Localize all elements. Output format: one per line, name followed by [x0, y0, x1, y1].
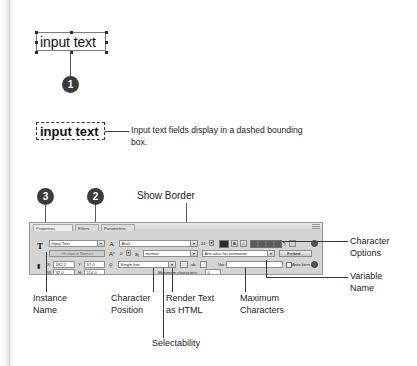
label-maximum-characters: Maximum Characters: [240, 293, 284, 316]
tab-parameters[interactable]: Parameters: [101, 224, 135, 231]
label-show-border: Show Border: [137, 189, 195, 202]
y-label: Y:: [78, 262, 82, 267]
font-family-value: Arial: [122, 241, 130, 246]
w-field[interactable]: 32.0: [53, 269, 75, 275]
chevron-down-icon[interactable]: ▼: [168, 262, 175, 267]
label-render-text-as-html: Render Text as HTML: [166, 293, 214, 316]
label-selectability: Selectability: [152, 338, 200, 350]
panel-options-icon[interactable]: [311, 261, 318, 268]
properties-panel[interactable]: Properties Filters Parameters T ▮ Input …: [29, 222, 323, 275]
embed-button-label: Embed...: [287, 251, 304, 256]
font-size-value[interactable]: 24: [201, 241, 206, 246]
line-type-icon: ⚲: [109, 262, 113, 268]
align-justify-icon[interactable]: [274, 240, 282, 248]
x-field[interactable]: 182.2: [53, 261, 75, 268]
h-field[interactable]: 114.0: [84, 269, 105, 275]
selectability-leader: [163, 268, 164, 338]
character-position-dropdown[interactable]: normal ▼: [143, 250, 198, 257]
selection-handle[interactable]: [105, 41, 108, 44]
character-position-icon: a₁: [135, 251, 139, 257]
tab-properties-label: Properties: [36, 226, 55, 231]
selection-handle[interactable]: [105, 31, 108, 34]
callout-badge-3: 3: [37, 188, 54, 205]
anti-alias-dropdown[interactable]: Anti-alias for animation ▼: [202, 250, 275, 257]
lock-icon: ▮: [37, 262, 40, 269]
italic-label: I: [243, 241, 244, 246]
variable-name-leader-v: [266, 260, 267, 277]
align-right-icon[interactable]: [266, 240, 274, 248]
max-chars-value: 0: [208, 270, 210, 275]
panel-grip-icon[interactable]: [312, 224, 320, 229]
character-options-leader: [282, 241, 348, 242]
y-value: 57.0: [87, 262, 95, 267]
chevron-down-icon[interactable]: ▼: [267, 251, 274, 256]
maximum-characters-leader: [245, 268, 246, 292]
figure2-caption: Input text fields display in a dashed bo…: [131, 124, 321, 149]
label-variable-name: Variable Name: [350, 271, 382, 294]
embed-button[interactable]: Embed...: [279, 250, 312, 257]
character-position-value: normal: [146, 251, 159, 256]
text-type-dropdown[interactable]: Input Text ▼: [49, 240, 105, 247]
auto-kern-label: Auto kern: [292, 262, 310, 267]
line-type-dropdown[interactable]: Single line ▼: [118, 261, 176, 268]
chevron-down-icon[interactable]: ▼: [190, 241, 197, 246]
max-chars-field[interactable]: 0: [205, 269, 221, 275]
render-text-as-html-leader: [172, 268, 173, 292]
letter-spacing-stepper[interactable]: ▼: [126, 250, 131, 256]
h-label: H:: [78, 270, 82, 275]
align-center-icon[interactable]: [258, 240, 266, 248]
text-tool-icon: T: [37, 241, 43, 251]
callout-leader-line: [70, 52, 71, 78]
callout-badge-2: 2: [87, 188, 104, 205]
dashed-text-field[interactable]: input text: [36, 122, 105, 140]
selectability-icon[interactable]: ab: [191, 262, 195, 267]
render-text-as-html-icon[interactable]: [180, 261, 188, 268]
text-field-value: input text: [40, 34, 96, 50]
x-label: X:: [47, 262, 51, 267]
instance-name-leader: [46, 252, 47, 292]
tab-filters-label: Filters: [78, 226, 89, 231]
selection-handle[interactable]: [70, 31, 73, 34]
text-field-value: input text: [40, 124, 99, 139]
tab-properties[interactable]: Properties: [33, 224, 73, 231]
label-character-options: Character Options: [350, 236, 390, 259]
font-family-dropdown[interactable]: Arial ▼: [119, 240, 198, 247]
x-value: 182.2: [56, 262, 66, 267]
tab-filters[interactable]: Filters: [75, 224, 99, 231]
character-position-leader: [153, 268, 154, 292]
line-type-value: Single line: [121, 262, 140, 267]
letter-spacing-value[interactable]: 0: [120, 251, 122, 256]
w-value: 32.0: [56, 270, 64, 275]
text-color-swatch[interactable]: [219, 240, 229, 248]
variable-name-field[interactable]: [226, 261, 283, 268]
chevron-down-icon[interactable]: ▼: [190, 251, 197, 256]
font-size-stepper[interactable]: ▼: [209, 240, 214, 246]
h-value: 114.0: [87, 270, 97, 275]
variable-name-leader-h: [266, 277, 348, 278]
page-edge-shading: [0, 0, 14, 366]
align-left-icon[interactable]: [250, 240, 258, 248]
label-character-position: Character Position: [111, 293, 151, 316]
selection-handle[interactable]: [35, 31, 38, 34]
chevron-down-icon[interactable]: ▼: [97, 241, 104, 246]
selection-handle[interactable]: [35, 41, 38, 44]
panel-body: T ▮ Input Text ▼ A Arial ▼ 24 ▼ B I ¶ <I…: [30, 231, 322, 275]
show-border-icon[interactable]: [200, 261, 207, 268]
character-spacing-icon: Aᵛ: [109, 251, 115, 257]
y-field[interactable]: 57.0: [84, 261, 105, 268]
instance-name-field[interactable]: <Instance Name>: [49, 250, 105, 257]
label-instance-name: Instance Name: [33, 293, 67, 316]
text-type-value: Input Text: [52, 241, 70, 246]
callout-badge-1: 1: [62, 76, 79, 93]
selection-handle[interactable]: [105, 51, 108, 54]
callout-3-leader: [45, 205, 46, 223]
callout-2-leader: [95, 205, 96, 223]
caption-leader-line: [105, 131, 129, 132]
font-letter-icon: A: [109, 240, 114, 248]
w-label: W:: [47, 270, 52, 275]
selected-text-field[interactable]: input text: [36, 32, 106, 51]
tab-parameters-label: Parameters: [104, 226, 126, 231]
selection-handle[interactable]: [35, 51, 38, 54]
var-label: Var:: [218, 262, 225, 267]
instance-name-placeholder: <Instance Name>: [60, 251, 93, 256]
